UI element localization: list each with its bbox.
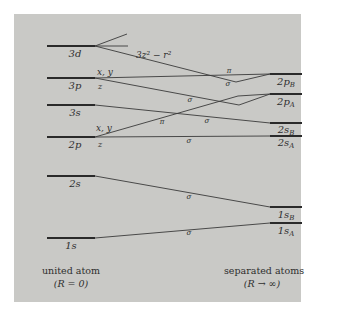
- label-3s: 3s: [69, 107, 81, 118]
- label-3p-z: z: [97, 82, 103, 91]
- line-2p-pi: [95, 94, 270, 137]
- sym-sigma-2s: σ: [187, 193, 192, 201]
- label-2sA: 2sA: [277, 137, 295, 150]
- label-1sB: 1sB: [278, 209, 295, 222]
- label-1sA: 1sA: [278, 225, 295, 238]
- caption-separated-atoms-r: (R → ∞): [244, 278, 281, 289]
- caption-separated-atoms: separated atoms: [224, 265, 304, 276]
- line-3d-fork-upper: [95, 34, 127, 46]
- caption-united-atom-r: (R = 0): [54, 278, 89, 289]
- label-3d: 3d: [69, 48, 82, 59]
- line-3p-pi: [95, 74, 270, 78]
- line-2p-sigma: [95, 136, 270, 137]
- correlation-lines: [95, 34, 270, 238]
- sym-sigma-1s: σ: [187, 229, 192, 237]
- label-d-component: 3z² − r²: [136, 50, 172, 60]
- label-2p-xy: x, y: [96, 123, 113, 133]
- correlation-diagram: 3d 3p 3s 2p 2s 1s 2pB 2pA 2sB 2sA 1sB 1s…: [0, 0, 344, 315]
- label-2s: 2s: [68, 178, 81, 189]
- sym-sigma-3d: σ: [226, 80, 231, 88]
- sym-sigma-2p-z: σ: [187, 137, 192, 145]
- sym-sigma-3p-z: σ: [188, 96, 193, 104]
- line-3s-sigma: [95, 105, 270, 123]
- sym-pi-3p: π: [226, 67, 232, 75]
- line-3p-sigma: [95, 78, 270, 105]
- line-2s-sigma: [95, 176, 270, 207]
- line-3d-sigma: [95, 46, 270, 82]
- label-3p: 3p: [69, 80, 82, 91]
- label-2p-z: z: [97, 140, 103, 149]
- sym-pi-2p: π: [159, 118, 165, 126]
- label-2p: 2p: [68, 139, 82, 150]
- sym-sigma-3s: σ: [205, 117, 210, 125]
- label-2pB: 2pB: [276, 76, 295, 89]
- label-1s: 1s: [65, 240, 77, 251]
- caption-united-atom: united atom: [42, 265, 100, 276]
- line-1s-sigma: [95, 223, 270, 238]
- label-3p-xy: x, y: [97, 67, 114, 77]
- label-2pA: 2pA: [276, 96, 295, 109]
